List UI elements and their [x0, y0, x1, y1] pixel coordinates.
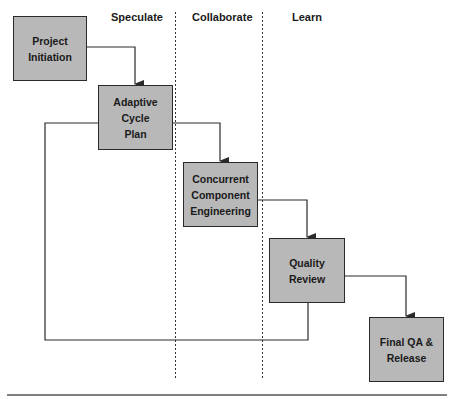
node-label: Adaptive Cycle Plan [113, 94, 157, 142]
node-label: Quality Review [289, 255, 325, 287]
edge-initiation-to-plan [86, 47, 135, 84]
node-label: Concurrent Component Engineering [190, 171, 251, 219]
node-adaptive-cycle-plan: Adaptive Cycle Plan [98, 85, 173, 150]
edge-feedback-loop [45, 123, 308, 340]
edge-review-to-release [344, 276, 406, 316]
edge-engineering-to-review [257, 200, 307, 237]
node-final-qa-release: Final QA & Release [369, 317, 444, 382]
adaptive-development-diagram: Speculate Collaborate Learn Project Init… [0, 0, 456, 399]
edge-plan-to-engineering [172, 123, 220, 161]
node-project-initiation: Project Initiation [13, 16, 87, 81]
phase-label-learn: Learn [292, 11, 322, 23]
phase-label-collaborate: Collaborate [192, 11, 253, 23]
node-label: Final QA & Release [380, 334, 433, 366]
node-label: Project Initiation [28, 33, 72, 65]
node-quality-review: Quality Review [269, 238, 345, 303]
phase-label-speculate: Speculate [111, 11, 163, 23]
node-concurrent-component-engineering: Concurrent Component Engineering [183, 162, 258, 227]
